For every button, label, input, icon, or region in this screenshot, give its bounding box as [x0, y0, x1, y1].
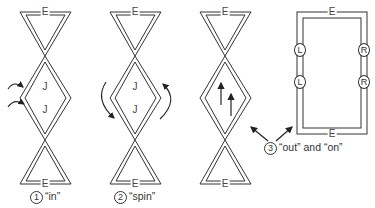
figure-out-bottom-label: E: [221, 179, 230, 189]
diagram-canvas: [0, 0, 375, 208]
figure-in-j2-label: J: [42, 105, 49, 115]
figure-out-top-label: E: [221, 7, 230, 17]
figure-on-left-l1: L: [294, 43, 306, 57]
number-3-icon: 3: [264, 142, 277, 155]
shared-caption: 3“out” and “on”: [264, 141, 343, 155]
figure-in-bottom-label: E: [41, 179, 50, 189]
figure-on-top-label: E: [328, 7, 337, 17]
caption-3-pointers: [251, 127, 292, 141]
figure-on-right-r2: R: [358, 75, 370, 89]
figure-on-shape: [297, 12, 367, 134]
figure-out-shape: [200, 12, 251, 184]
figure-spin-top-label: E: [131, 7, 140, 17]
figure-out-spin-arrows: [221, 83, 231, 116]
figure-in-top-label: E: [41, 7, 50, 17]
figure-spin-caption: 2“spin”: [114, 190, 155, 204]
figure-in-shape: [20, 12, 71, 184]
figure-spin-j1-label: J: [132, 82, 139, 92]
shared-caption-text: “out” and “on”: [279, 141, 343, 153]
figure-in-caption: 1“in”: [30, 190, 60, 204]
figure-spin-caption-text: “spin”: [129, 190, 155, 202]
figure-on-bottom-label: E: [328, 129, 337, 139]
figure-in-caption-text: “in”: [45, 190, 60, 202]
figure-in-j1-label: J: [42, 82, 49, 92]
figure-spin-shape: [110, 12, 161, 184]
number-2-icon: 2: [114, 191, 127, 204]
figure-spin-bottom-label: E: [131, 179, 140, 189]
figure-on-right-r1: R: [358, 43, 370, 57]
figure-on-left-l2: L: [294, 75, 306, 89]
number-1-icon: 1: [30, 191, 43, 204]
figure-spin-j2-label: J: [132, 105, 139, 115]
